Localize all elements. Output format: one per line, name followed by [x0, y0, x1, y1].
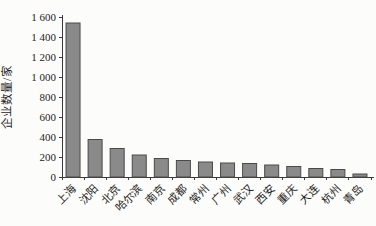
y-tick-label: 800 [40, 91, 57, 103]
y-tick-label: 0 [51, 171, 57, 183]
x-tick-label: 武汉 [231, 182, 255, 206]
y-tick-label: 600 [40, 111, 57, 123]
y-tick-label: 200 [40, 151, 57, 163]
bar-杭州 [331, 170, 345, 178]
bar-西安 [265, 165, 279, 177]
bar-广州 [221, 163, 235, 177]
bar-沈阳 [88, 140, 102, 178]
x-tick-label: 青岛 [341, 181, 366, 206]
x-tick-label: 上海 [54, 181, 79, 206]
x-tick-label: 沈阳 [76, 181, 101, 206]
x-tick-label: 成都 [165, 182, 189, 206]
y-tick-label: 400 [40, 131, 57, 143]
bar-上海 [66, 23, 80, 177]
bar-武汉 [243, 164, 257, 178]
x-tick-label: 南京 [142, 181, 167, 206]
x-tick-label: 杭州 [319, 181, 344, 206]
x-tick-label: 大连 [296, 181, 321, 206]
bar-哈尔滨 [132, 155, 146, 177]
y-tick-label: 1 600 [31, 11, 56, 23]
bar-南京 [154, 159, 168, 178]
bar-成都 [176, 161, 190, 178]
x-tick-label: 常州 [187, 182, 211, 206]
bar-北京 [110, 149, 124, 178]
bar-常州 [198, 162, 212, 177]
x-tick-label: 重庆 [274, 181, 299, 206]
x-tick-label: 广州 [209, 182, 233, 206]
bar-重庆 [287, 167, 301, 178]
x-tick-label: 西安 [252, 181, 277, 206]
y-tick-label: 1 400 [31, 31, 56, 43]
y-tick-label: 1 200 [31, 51, 56, 63]
bar-chart: 企业数量/家 02004006008001 0001 2001 4001 600… [0, 0, 376, 226]
bar-chart-figure: 企业数量/家 02004006008001 0001 2001 4001 600… [0, 0, 376, 226]
y-tick-label: 1 000 [31, 71, 56, 83]
bar-青岛 [353, 174, 367, 177]
y-axis-title: 企业数量/家 [0, 65, 13, 129]
bar-大连 [309, 169, 323, 178]
